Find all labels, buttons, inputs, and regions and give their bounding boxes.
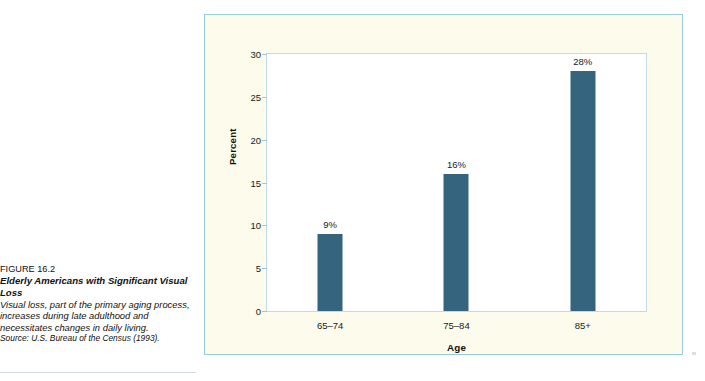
scan-artifact [692, 352, 696, 355]
x-tick-label: 85+ [575, 320, 591, 331]
figure-source: Source: U.S. Bureau of the Census (1993)… [0, 333, 196, 344]
figure-title: Elderly Americans with Significant Visua… [0, 275, 196, 298]
x-tick-label: 75–84 [443, 320, 469, 331]
figure-number: FIGURE 16.2 [0, 264, 196, 275]
bar-group[interactable]: 16%75–84 [393, 54, 519, 311]
y-tick-label: 5 [256, 263, 267, 274]
y-tick-label: 20 [250, 134, 267, 145]
figure-caption: FIGURE 16.2 Elderly Americans with Signi… [0, 264, 196, 344]
bar[interactable] [570, 71, 595, 311]
figure-frame: Percent 051015202530 9%65–7416%75–8428%8… [204, 14, 683, 355]
bar-group[interactable]: 9%65–74 [267, 54, 393, 311]
bar-value-label: 9% [323, 219, 337, 230]
caption-divider [0, 372, 196, 373]
y-tick-label: 25 [250, 91, 267, 102]
x-tick-label: 65–74 [317, 320, 343, 331]
y-tick-label: 30 [250, 49, 267, 60]
bar[interactable] [318, 234, 343, 311]
bar-group[interactable]: 28%85+ [520, 54, 646, 311]
y-axis-title: Percent [227, 128, 238, 165]
bar-value-label: 28% [573, 56, 592, 67]
y-tick-label: 10 [250, 220, 267, 231]
x-axis-title: Age [266, 342, 647, 353]
bar-value-label: 16% [447, 159, 466, 170]
plot-area: 051015202530 9%65–7416%75–8428%85+ [266, 53, 647, 312]
y-tick-label: 0 [256, 306, 267, 317]
y-tick-label: 15 [250, 177, 267, 188]
bar[interactable] [444, 174, 469, 311]
figure-description: Visual loss, part of the primary aging p… [0, 299, 196, 334]
